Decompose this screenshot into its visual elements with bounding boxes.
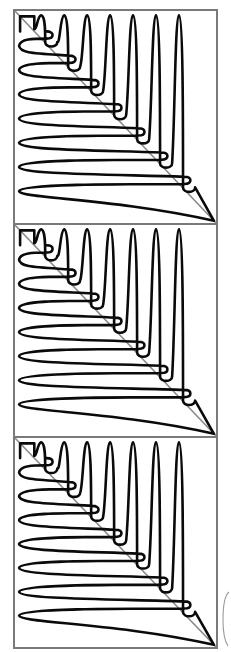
panel (14, 10, 217, 224)
panel (14, 437, 217, 648)
panel (14, 224, 217, 437)
serpentine-curve (19, 229, 214, 433)
edge-mark (223, 592, 229, 646)
serpentine-figure (0, 0, 231, 652)
panels-group (14, 10, 217, 648)
serpentine-curve (19, 15, 214, 220)
serpentine-curve (19, 442, 214, 645)
